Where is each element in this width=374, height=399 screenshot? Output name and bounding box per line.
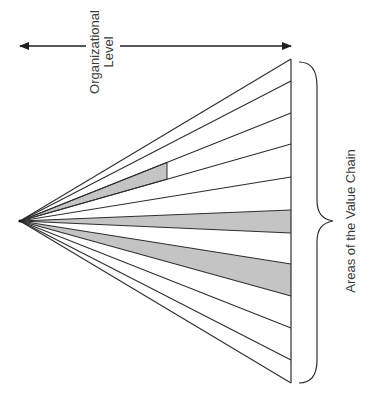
ray (20, 81, 291, 221)
value-chain-fan-diagram: Organizational Level Areas of the Value … (0, 0, 374, 399)
label-line-level: Level (101, 36, 116, 67)
label-areas-value-chain: Areas of the Value Chain (343, 149, 358, 293)
organizational-level-label: Organizational Level (87, 10, 116, 94)
ray (20, 59, 291, 221)
label-line-organizational: Organizational (87, 10, 102, 94)
fan-apex (18, 219, 21, 222)
ray (20, 221, 291, 360)
curly-brace (299, 62, 333, 383)
areas-of-value-chain-label: Areas of the Value Chain (343, 149, 358, 293)
ray (20, 144, 291, 221)
ray (20, 113, 291, 221)
